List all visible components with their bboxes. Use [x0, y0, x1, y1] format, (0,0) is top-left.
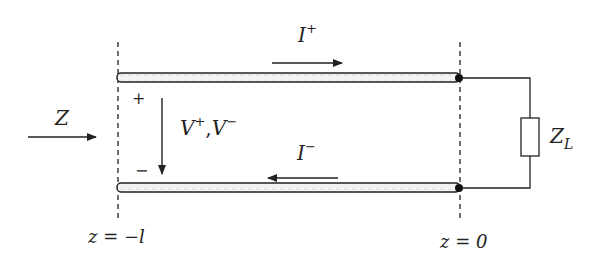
- load-label: ZL: [549, 124, 573, 152]
- load-resistor: [521, 118, 539, 156]
- load-wire-bottom: [463, 156, 530, 188]
- load-wire-top: [463, 78, 530, 118]
- lower-terminal-dot: [455, 184, 463, 192]
- plus-sign: +: [132, 89, 145, 108]
- transmission-line-diagram: Z I+ I− V+,V− + − ZL z = −l z = 0: [0, 0, 607, 260]
- left-position-label: z = −l: [87, 226, 145, 247]
- forward-current-label: I+: [297, 21, 317, 47]
- reverse-current-label: I−: [296, 139, 316, 165]
- upper-terminal-dot: [455, 74, 463, 82]
- voltage-label: V+,V−: [180, 114, 237, 140]
- right-position-label: z = 0: [439, 231, 487, 252]
- upper-conductor: [117, 73, 460, 82]
- minus-sign: −: [135, 161, 148, 180]
- input-impedance-label: Z: [54, 106, 70, 130]
- lower-conductor: [117, 183, 460, 192]
